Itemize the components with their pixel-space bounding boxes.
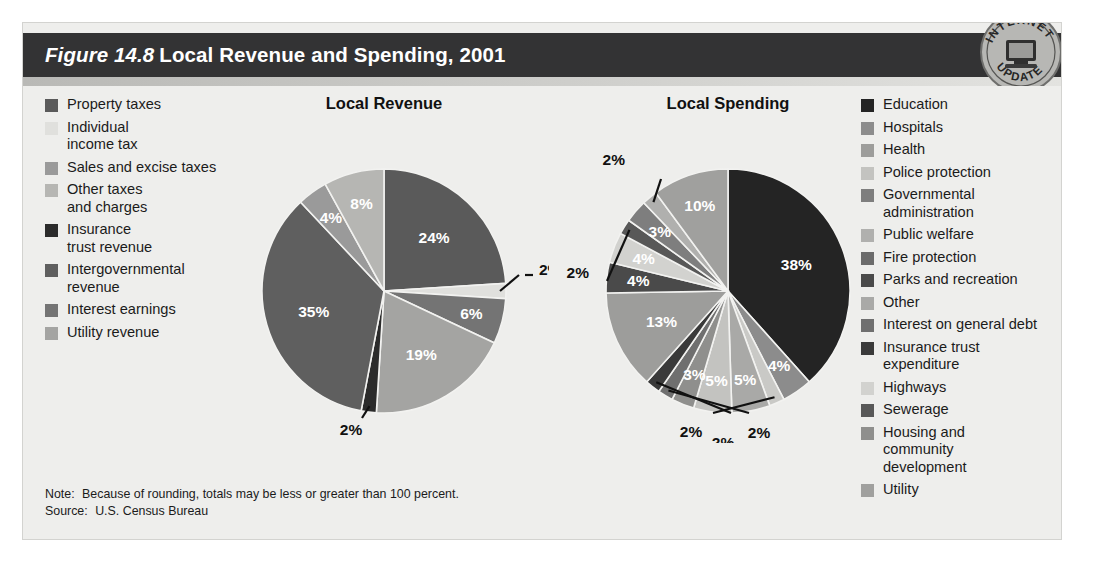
legend-spending-item[interactable]: Fire protection xyxy=(861,249,1061,267)
legend-revenue-item[interactable]: Utility revenue xyxy=(45,324,245,342)
legend-spending-label: Health xyxy=(883,141,925,159)
legend-spending-item[interactable]: Interest on general debt xyxy=(861,316,1061,334)
legend-revenue-item[interactable]: Property taxes xyxy=(45,96,245,114)
pie-slice-label: 38% xyxy=(781,256,812,273)
legend-spending-label: Hospitals xyxy=(883,119,943,137)
legend-revenue-item[interactable]: Sales and excise taxes xyxy=(45,159,245,177)
legend-swatch-icon xyxy=(45,327,58,340)
legend-spending-item[interactable]: Other xyxy=(861,294,1061,312)
legend-spending-label: Utility xyxy=(883,481,919,499)
pie-slice-label: 3% xyxy=(649,223,672,240)
figure-body: Property taxesIndividual income taxSales… xyxy=(23,86,1061,540)
legend-spending-item[interactable]: Parks and recreation xyxy=(861,271,1061,289)
legend-revenue-label: Utility revenue xyxy=(67,324,159,342)
legend-spending-item[interactable]: Sewerage xyxy=(861,401,1061,419)
pie-slice-label: 10% xyxy=(684,197,715,214)
legend-revenue-item[interactable]: Insurance trust revenue xyxy=(45,221,245,256)
legend-swatch-icon xyxy=(861,484,874,497)
legend-revenue-item[interactable]: Individual income tax xyxy=(45,119,245,154)
chart-title-local-revenue: Local Revenue xyxy=(219,94,549,113)
legend-swatch-icon xyxy=(45,184,58,197)
legend-spending-label: Education xyxy=(883,96,948,114)
footnote-source-text: U.S. Census Bureau xyxy=(95,504,208,518)
pie-slice-label: 8% xyxy=(350,195,373,212)
pie-slice-label: 2% xyxy=(340,421,363,438)
pie-slice-label: 19% xyxy=(406,346,437,363)
legend-spending-label: Highways xyxy=(883,379,946,397)
legend-spending-label: Governmental administration xyxy=(883,186,975,221)
legend-revenue-label: Interest earnings xyxy=(67,301,176,319)
legend-revenue-label: Insurance trust revenue xyxy=(67,221,152,256)
footnote-source-key: Source: xyxy=(45,504,88,518)
legend-spending-label: Fire protection xyxy=(883,249,976,267)
legend-spending-item[interactable]: Housing and community development xyxy=(861,424,1061,477)
legend-revenue-item[interactable]: Intergovernmental revenue xyxy=(45,261,245,296)
legend-spending-label: Interest on general debt xyxy=(883,316,1037,334)
footnote-source: Source: U.S. Census Bureau xyxy=(45,503,459,520)
pie-slice-label: 4% xyxy=(627,272,650,289)
legend-revenue-label: Individual income tax xyxy=(67,119,138,154)
legend-revenue-label: Intergovernmental revenue xyxy=(67,261,185,296)
legend-revenue-label: Property taxes xyxy=(67,96,161,114)
figure-header-bar: Figure 14.8Local Revenue and Spending, 2… xyxy=(23,33,1061,77)
pie-slice-label: 3% xyxy=(683,366,706,383)
legend-revenue-label: Other taxes and charges xyxy=(67,181,147,216)
legend-spending-item[interactable]: Health xyxy=(861,141,1061,159)
legend-swatch-icon xyxy=(45,224,58,237)
pie-slice-label: 2% xyxy=(567,264,590,281)
pie-slice-label: 6% xyxy=(460,305,483,322)
legend-swatch-icon xyxy=(861,342,874,355)
legend-swatch-icon xyxy=(861,427,874,440)
pie-slice-label: 2% xyxy=(748,424,771,441)
figure-card: Figure 14.8Local Revenue and Spending, 2… xyxy=(22,22,1062,540)
figure-number: Figure 14.8 xyxy=(45,43,154,66)
internet-update-seal[interactable]: INTERNET UPDATE xyxy=(978,22,1062,95)
chart-local-revenue: Local Revenue 24%2%6%19%2%35%4%8% xyxy=(219,86,549,443)
legend-swatch-icon xyxy=(45,304,58,317)
legend-spending-item[interactable]: Governmental administration xyxy=(861,186,1061,221)
pie-chart-local-revenue: 24%2%6%19%2%35%4%8% xyxy=(219,113,549,443)
pie-slice-label: 5% xyxy=(705,372,728,389)
legend-revenue-item[interactable]: Other taxes and charges xyxy=(45,181,245,216)
legend-spending-item[interactable]: Police protection xyxy=(861,164,1061,182)
legend-swatch-icon xyxy=(45,122,58,135)
pie-slice-label: 2% xyxy=(603,151,626,168)
legend-swatch-icon xyxy=(45,264,58,277)
pie-slice-label: 13% xyxy=(646,313,677,330)
legend-swatch-icon xyxy=(861,189,874,202)
legend-swatch-icon xyxy=(861,122,874,135)
footnote-note-key: Note: xyxy=(45,487,75,501)
legend-swatch-icon xyxy=(861,229,874,242)
legend-swatch-icon xyxy=(861,167,874,180)
chart-title-local-spending: Local Spending xyxy=(563,94,893,113)
pie-slice-label: 4% xyxy=(632,250,655,267)
pie-holder-revenue: 24%2%6%19%2%35%4%8% xyxy=(219,113,549,443)
header-accent-bar xyxy=(23,77,1061,86)
legend-swatch-icon xyxy=(861,297,874,310)
footnote-note: Note: Because of rounding, totals may be… xyxy=(45,486,459,503)
pie-slice-label: 24% xyxy=(419,229,450,246)
legend-swatch-icon xyxy=(861,404,874,417)
pie-slice-label: 4% xyxy=(320,209,343,226)
legend-spending-item[interactable]: Hospitals xyxy=(861,119,1061,137)
legend-spending-label: Other xyxy=(883,294,920,312)
legend-spending-item[interactable]: Utility xyxy=(861,481,1061,499)
pie-slice-label: 2% xyxy=(712,434,735,443)
legend-spending-item[interactable]: Highways xyxy=(861,379,1061,397)
figure-footnote: Note: Because of rounding, totals may be… xyxy=(45,486,459,520)
legend-spending-item[interactable]: Insurance trust expenditure xyxy=(861,339,1061,374)
legend-spending-label: Parks and recreation xyxy=(883,271,1018,289)
legend-spending-item[interactable]: Public welfare xyxy=(861,226,1061,244)
legend-local-revenue: Property taxesIndividual income taxSales… xyxy=(45,96,245,346)
pie-holder-spending: 38%4%2%5%5%3%2%2%13%4%4%2%3%2%10% xyxy=(563,113,893,443)
legend-spending-label: Police protection xyxy=(883,164,991,182)
legend-spending-label: Insurance trust expenditure xyxy=(883,339,980,374)
legend-spending-item[interactable]: Education xyxy=(861,96,1061,114)
legend-revenue-label: Sales and excise taxes xyxy=(67,159,216,177)
pie-slice-label: 2% xyxy=(539,261,549,278)
legend-swatch-icon xyxy=(861,144,874,157)
legend-revenue-item[interactable]: Interest earnings xyxy=(45,301,245,319)
legend-swatch-icon xyxy=(45,99,58,112)
legend-swatch-icon xyxy=(861,99,874,112)
pie-chart-local-spending: 38%4%2%5%5%3%2%2%13%4%4%2%3%2%10% xyxy=(563,113,893,443)
